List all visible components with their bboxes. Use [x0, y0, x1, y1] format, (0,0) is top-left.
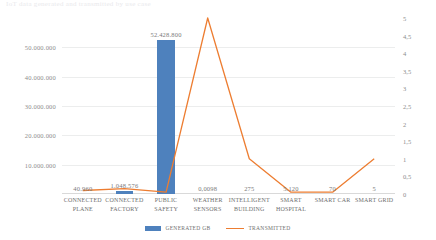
legend-bar-swatch	[145, 226, 161, 231]
category-label: SMART CAR	[312, 196, 354, 220]
left-axis-tick: 20.000.000	[25, 132, 56, 139]
left-axis-tick: 40.000.000	[25, 73, 56, 80]
category-label: WEATHERSENSORS	[187, 196, 229, 220]
legend-label: GENERATED GB	[165, 225, 210, 231]
right-axis-tick: 4,5	[403, 32, 411, 39]
right-axis-tick: 1,5	[403, 138, 411, 145]
right-axis-tick: 5	[403, 15, 406, 22]
data-label: 5	[372, 185, 375, 192]
right-axis-tick: 2	[403, 120, 406, 127]
data-label: 1.048.576	[111, 182, 139, 189]
category-label: SMART GRID	[353, 196, 395, 220]
line-series-transmitted	[62, 18, 395, 194]
category-label: PUBLICSAFETY	[145, 196, 187, 220]
right-axis-tick: 2,5	[403, 103, 411, 110]
legend-label: TRANSMITTED	[248, 225, 290, 231]
legend-item-transmitted[interactable]: TRANSMITTED	[226, 225, 290, 231]
line-path	[83, 18, 374, 192]
right-axis-tick: 0	[403, 191, 406, 198]
category-label: CONNECTEDFACTORY	[104, 196, 146, 220]
data-label: 52.428.800	[150, 31, 181, 38]
data-label: 40.960	[73, 185, 92, 192]
left-axis-tick: 30.000.000	[25, 103, 56, 110]
right-axis-tick: 0,5	[403, 173, 411, 180]
category-axis-labels: CONNECTEDPLANECONNECTEDFACTORYPUBLICSAFE…	[62, 196, 395, 220]
data-label: 5.120	[283, 185, 299, 192]
right-axis-tick: 1	[403, 155, 406, 162]
legend-line-swatch	[226, 228, 244, 229]
chart-legend: GENERATED GBTRANSMITTED	[0, 225, 436, 231]
right-axis-tick: 3	[403, 85, 406, 92]
chart-title-clipped: IoT data generated and transmitted by us…	[6, 0, 306, 9]
left-axis-tick: 50.000.000	[25, 44, 56, 51]
category-label: CONNECTEDPLANE	[62, 196, 104, 220]
data-label: 275	[244, 185, 254, 192]
category-label: SMARTHOSPITAL	[270, 196, 312, 220]
plot-area: 10.000.00020.000.00030.000.00040.000.000…	[62, 18, 395, 194]
data-label: 70	[329, 185, 336, 192]
data-label: 0,0098	[198, 185, 217, 192]
category-label: INTELLIGENTBUILDING	[229, 196, 271, 220]
combo-chart: IoT data generated and transmitted by us…	[0, 0, 436, 240]
legend-item-generated-gb[interactable]: GENERATED GB	[145, 225, 210, 231]
right-axis-tick: 4	[403, 50, 406, 57]
left-axis-tick: 10.000.000	[25, 161, 56, 168]
right-axis-tick: 3,5	[403, 67, 411, 74]
